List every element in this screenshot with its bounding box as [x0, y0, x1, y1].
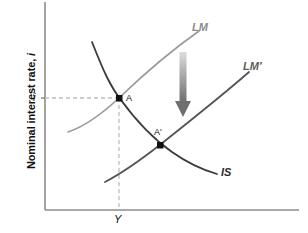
is-curve: [92, 42, 217, 174]
lm-prime-curve-label: LM′: [243, 60, 262, 72]
point-a-marker: [116, 95, 123, 102]
is-lm-diagram: Nominal interest rate, i i Y LM LM′ IS A…: [0, 0, 308, 233]
lm-curve-label: LM: [192, 21, 208, 33]
plot-canvas: [0, 0, 308, 233]
point-a-prime-marker: [157, 142, 164, 149]
x-tick-label: Y: [114, 213, 121, 225]
y-axis-title: Nominal interest rate, i: [25, 31, 37, 191]
is-curve-label: IS: [221, 166, 231, 178]
y-axis-title-variable: i: [25, 53, 37, 56]
downward-shift-arrow: [175, 52, 191, 117]
point-a-label: A: [126, 93, 132, 103]
point-a-prime-label: A′: [154, 127, 162, 137]
y-tick-label: i: [33, 91, 35, 103]
y-axis-title-text: Nominal interest rate,: [25, 56, 37, 169]
